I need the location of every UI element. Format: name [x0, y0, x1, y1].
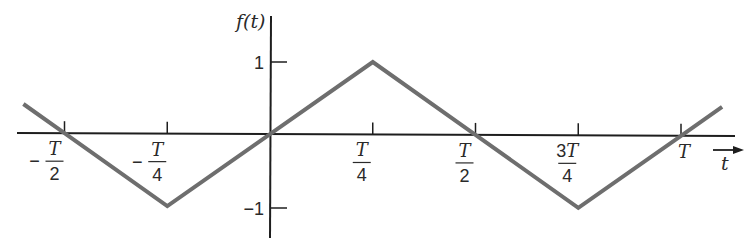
svg-text:T: T — [356, 139, 370, 160]
svg-text:4: 4 — [562, 166, 572, 186]
svg-text:T: T — [48, 138, 62, 159]
triangle-wave-plot: T2−T4−T4T23T4T 1−1 f(t) t — [0, 0, 752, 248]
x-tick-label: 3T4 — [556, 140, 580, 186]
x-tick-label: T4 — [353, 139, 371, 185]
svg-text:3T: 3T — [556, 140, 580, 161]
x-tick-label: T2− — [29, 138, 63, 184]
svg-text:T: T — [151, 139, 165, 160]
svg-text:−: − — [132, 152, 143, 172]
svg-text:2: 2 — [49, 164, 59, 184]
svg-text:4: 4 — [152, 165, 162, 185]
x-tick-label: T — [678, 141, 692, 162]
svg-text:2: 2 — [459, 166, 469, 186]
svg-text:−: − — [29, 151, 40, 171]
svg-text:T: T — [678, 141, 692, 162]
y-tick-label: 1 — [254, 53, 264, 73]
arrow-right-icon — [733, 146, 744, 154]
y-tick-label: −1 — [243, 199, 264, 219]
svg-text:4: 4 — [357, 165, 367, 185]
x-tick-label: T4− — [132, 139, 166, 185]
x-tick-label: T2 — [456, 140, 474, 186]
x-axis-label: t — [721, 152, 729, 174]
y-axis-label: f(t) — [234, 10, 266, 32]
y-axis — [270, 16, 271, 238]
svg-text:T: T — [458, 140, 472, 161]
axes — [17, 16, 735, 238]
x-axis — [17, 133, 735, 136]
